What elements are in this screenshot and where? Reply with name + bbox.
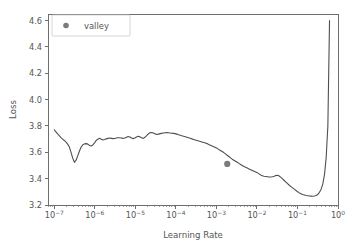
chart-legend[interactable]: valley (52, 15, 130, 36)
figure-canvas: 10−710−610−510−410−310−210−11003.23.43.6… (0, 0, 355, 251)
valley-marker[interactable] (224, 161, 230, 167)
y-tick-label: 3.8 (29, 121, 42, 131)
legend-marker-icon (63, 23, 69, 29)
x-tick-label: 10−4 (166, 210, 185, 220)
x-tick-label: 10−2 (247, 210, 266, 220)
x-tick-label: 10−3 (207, 210, 226, 220)
y-axis-label: Loss (8, 100, 18, 119)
x-tick-label: 10−6 (85, 210, 104, 220)
x-tick-label: 100 (331, 210, 345, 220)
data-series-layer (54, 21, 329, 197)
loss-curve (54, 21, 329, 197)
valley-marker-layer[interactable] (224, 161, 230, 167)
y-tick-label: 4.6 (29, 16, 42, 26)
x-tick-label: 10−7 (45, 210, 64, 220)
x-tick-label: 10−1 (288, 210, 307, 220)
y-tick-label: 3.2 (29, 200, 42, 210)
y-tick-label: 4.0 (29, 95, 42, 105)
tick-label-layer: 10−710−610−510−410−310−210−11003.23.43.6… (29, 16, 345, 220)
x-axis-label: Learning Rate (163, 230, 223, 240)
y-tick-label: 3.6 (29, 147, 42, 157)
y-tick-label: 3.4 (29, 174, 42, 184)
loss-vs-learning-rate-chart: 10−710−610−510−410−310−210−11003.23.43.6… (0, 0, 355, 251)
y-tick-label: 4.4 (29, 42, 42, 52)
legend-entry-label: valley (84, 21, 109, 31)
axis-ticks (45, 21, 339, 209)
plot-frame (48, 14, 338, 205)
x-tick-label: 10−5 (126, 210, 145, 220)
y-tick-label: 4.2 (29, 68, 42, 78)
axes-spines (48, 14, 338, 205)
